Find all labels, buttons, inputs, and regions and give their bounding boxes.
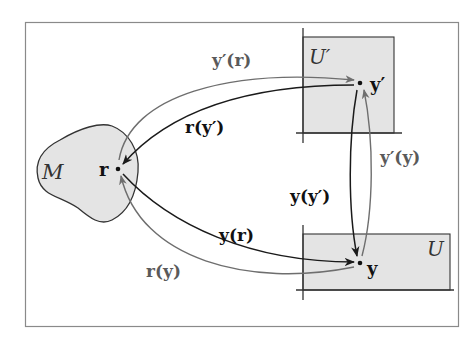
- point-y-prime-label: y′: [369, 74, 385, 95]
- point-y: [358, 261, 363, 266]
- region-m-label: M: [41, 160, 64, 184]
- point-r-label: r: [99, 159, 109, 180]
- point-y-prime: [358, 81, 363, 86]
- label-y-prime-of-r: y′(r): [211, 50, 251, 70]
- label-y-of-r: y(r): [218, 225, 254, 245]
- diagram-canvas: M U′ U r y′ y y′(r) r(y′) y(r) r(y) y(y′…: [0, 0, 476, 344]
- region-u-label: U: [427, 237, 445, 261]
- label-y-of-y-prime: y(y′): [289, 186, 330, 206]
- label-r-of-y-prime: r(y′): [185, 117, 224, 137]
- point-y-label: y: [366, 258, 378, 279]
- region-u-prime-label: U′: [309, 45, 331, 69]
- point-r: [116, 167, 121, 172]
- label-r-of-y: r(y): [146, 261, 181, 281]
- label-y-prime-of-y: y′(y): [379, 147, 420, 167]
